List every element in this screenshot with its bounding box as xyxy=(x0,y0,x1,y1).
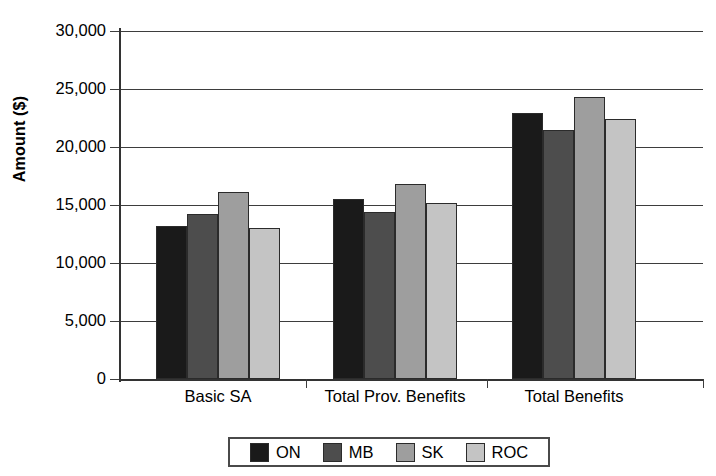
legend-swatch-mb xyxy=(323,443,342,462)
legend-label-sk: SK xyxy=(422,444,444,461)
y-axis-tick-label: 0 xyxy=(10,370,106,386)
legend-label-roc: ROC xyxy=(492,444,529,461)
y-axis-line xyxy=(119,28,121,382)
y-axis-tick-label: 10,000 xyxy=(10,254,106,270)
bar-on-2 xyxy=(333,199,364,379)
bar-sk-3 xyxy=(574,97,605,379)
gridline xyxy=(119,31,703,32)
bar-mb-1 xyxy=(187,214,218,379)
gridline xyxy=(119,89,703,90)
y-axis-tick-label: 15,000 xyxy=(10,196,106,212)
legend: ONMBSKROC xyxy=(228,437,550,467)
y-axis-tick-label: 30,000 xyxy=(10,22,106,38)
legend-item-on: ON xyxy=(250,443,301,462)
x-axis-line xyxy=(119,379,703,381)
bar-sk-2 xyxy=(395,184,426,379)
bar-roc-3 xyxy=(605,119,636,379)
bar-mb-3 xyxy=(543,130,574,379)
bar-mb-2 xyxy=(364,212,395,379)
legend-label-on: ON xyxy=(276,444,301,461)
bar-roc-1 xyxy=(249,228,280,379)
legend-swatch-on xyxy=(250,443,269,462)
plot-area xyxy=(119,31,703,379)
legend-swatch-sk xyxy=(396,443,415,462)
bar-roc-2 xyxy=(426,203,457,379)
bar-chart: Amount ($) 30,00025,00020,00015,00010,00… xyxy=(0,0,716,476)
y-axis-tick-label: 5,000 xyxy=(10,312,106,328)
y-axis-tick-label: 25,000 xyxy=(10,80,106,96)
legend-item-mb: MB xyxy=(323,443,374,462)
x-axis-tick xyxy=(703,379,704,388)
bar-on-1 xyxy=(156,226,187,379)
y-axis-tick-label: 20,000 xyxy=(10,138,106,154)
bar-on-3 xyxy=(512,113,543,379)
legend-swatch-roc xyxy=(466,443,485,462)
legend-item-roc: ROC xyxy=(466,443,529,462)
x-axis-label-3: Total Benefits xyxy=(464,387,684,406)
bar-sk-1 xyxy=(218,192,249,379)
legend-label-mb: MB xyxy=(349,444,374,461)
legend-item-sk: SK xyxy=(396,443,444,462)
